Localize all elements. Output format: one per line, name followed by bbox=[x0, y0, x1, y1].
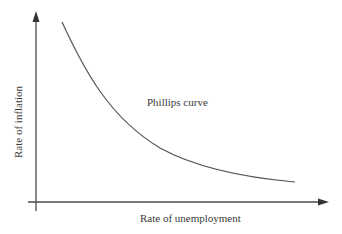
y-axis-arrow-icon bbox=[33, 11, 40, 22]
y-axis-label: Rate of inflation bbox=[12, 85, 24, 158]
curve-label: Phillips curve bbox=[147, 96, 208, 108]
x-axis-label: Rate of unemployment bbox=[140, 212, 241, 224]
x-axis-arrow-icon bbox=[318, 199, 329, 206]
phillips-curve-diagram: Phillips curve Rate of unemployment Rate… bbox=[0, 0, 342, 234]
